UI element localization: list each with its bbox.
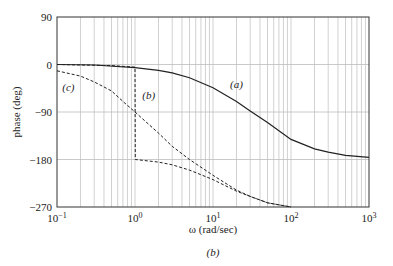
annotation-b: (b) bbox=[142, 89, 155, 102]
tick-labels: 10−1100101102103900−90−180−270 bbox=[29, 11, 376, 224]
figure-caption: (b) bbox=[207, 246, 220, 259]
y-tick-label: −180 bbox=[29, 154, 52, 166]
series-b bbox=[57, 65, 291, 208]
x-tick-label: 102 bbox=[284, 211, 299, 224]
y-axis-label: phase (deg) bbox=[10, 86, 23, 137]
x-tick-label: 103 bbox=[362, 211, 377, 224]
annotation-a: (a) bbox=[230, 78, 243, 91]
series-c bbox=[57, 71, 291, 207]
y-tick-label: 90 bbox=[41, 11, 53, 23]
y-tick-label: −270 bbox=[29, 201, 52, 213]
x-tick-label: 100 bbox=[128, 211, 143, 224]
grid-lines bbox=[57, 17, 369, 207]
x-axis-label: ω (rad/sec) bbox=[189, 223, 238, 236]
y-tick-label: −90 bbox=[35, 106, 53, 118]
annotation-c: (c) bbox=[62, 81, 75, 94]
y-tick-label: 0 bbox=[47, 59, 53, 71]
phase-plot: 10−1100101102103900−90−180−270 (a)(b)(c)… bbox=[0, 0, 393, 266]
